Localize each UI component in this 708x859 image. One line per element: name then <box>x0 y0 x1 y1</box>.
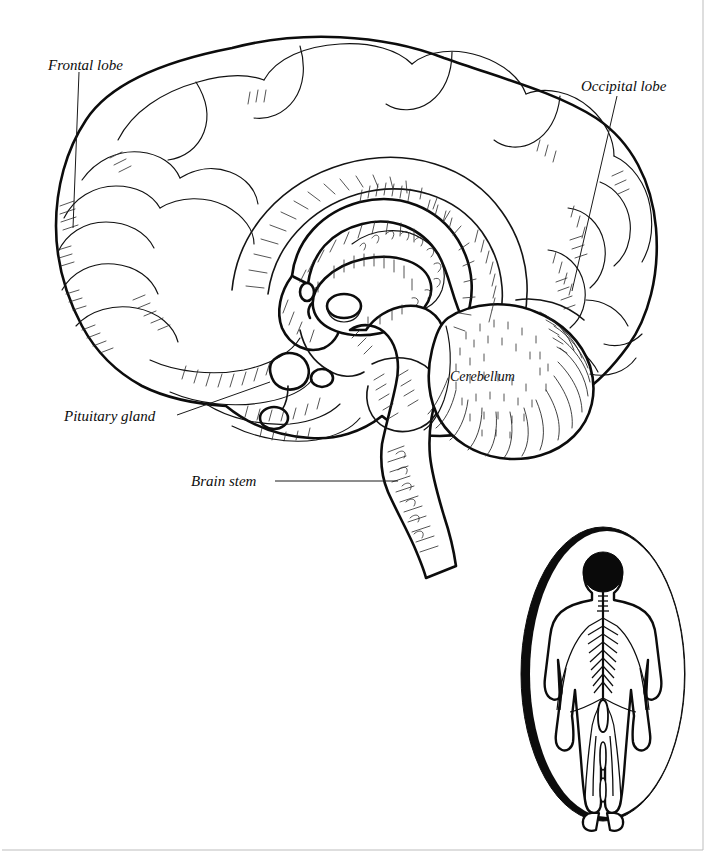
label-pituitary-gland: Pituitary gland <box>63 408 156 424</box>
mammillary-body <box>311 369 333 387</box>
brain-diagram-figure: Frontal lobe Occipital lobe Pituitary gl… <box>0 0 708 859</box>
label-frontal-lobe: Frontal lobe <box>47 57 123 73</box>
inset-conus-medullaris <box>598 700 608 732</box>
inset-lower-cord-2 <box>600 778 606 802</box>
massa-intermedia <box>327 294 361 318</box>
brain-diagram-canvas: Frontal lobe Occipital lobe Pituitary gl… <box>0 0 708 859</box>
label-brain-stem: Brain stem <box>191 473 257 489</box>
anterior-commissure <box>300 283 314 301</box>
label-occipital-lobe: Occipital lobe <box>581 78 667 94</box>
label-cerebellum: Cerebellum <box>450 369 515 384</box>
inset-brain-head <box>583 552 623 592</box>
inset-lower-cord-1 <box>600 742 606 770</box>
